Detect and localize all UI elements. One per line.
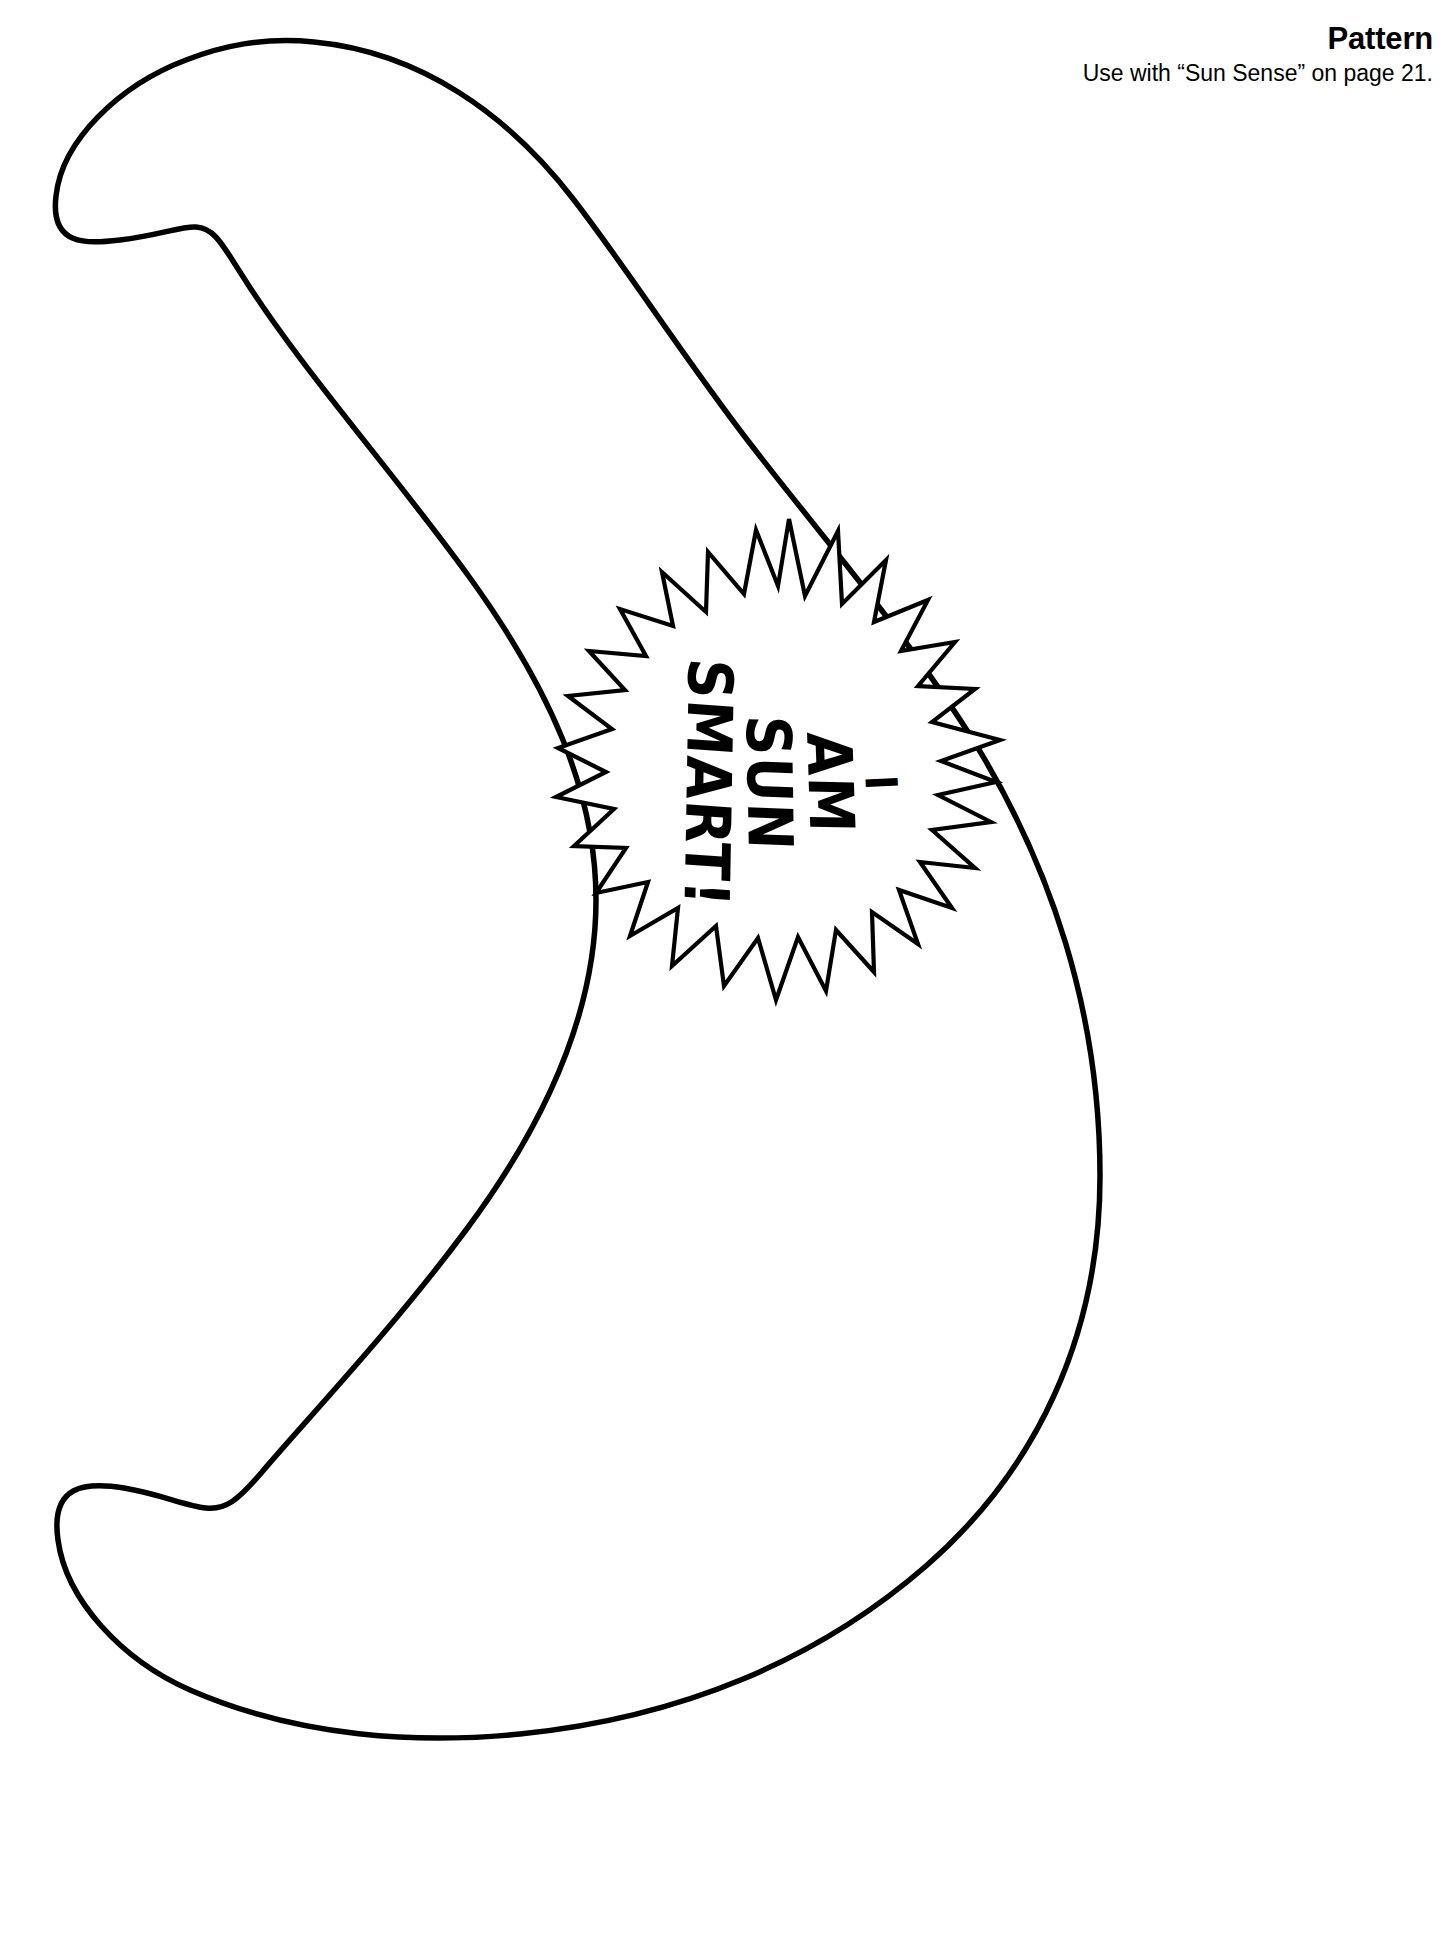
pattern-page: Pattern Use with “Sun Sense” on page 21.… <box>0 0 1449 1956</box>
crescent-moon-outline <box>55 41 1100 1738</box>
pattern-artwork <box>0 0 1449 1956</box>
